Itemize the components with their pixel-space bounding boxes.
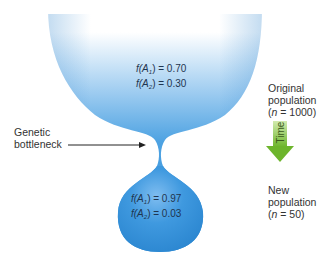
bottleneck-label: Genetic bottleneck: [14, 126, 62, 150]
genetic-bottleneck-diagram: f(A1) = 0.70 f(A2) = 0.30 f(A1) = 0.97 f…: [0, 0, 335, 261]
time-label: Time: [275, 120, 286, 146]
top-fade: [40, 0, 270, 14]
new-allele-frequencies: f(A1) = 0.97 f(A2) = 0.03: [131, 193, 181, 223]
original-population-size: (n = 1000): [268, 106, 316, 118]
new-population-size: (n = 50): [268, 208, 316, 220]
original-allele-frequencies: f(A1) = 0.70 f(A2) = 0.30: [136, 63, 186, 93]
new-freq-a2: f(A2) = 0.03: [131, 208, 181, 223]
original-population-label: Original population (n = 1000): [268, 82, 316, 118]
bottleneck-arrowhead-icon: [139, 142, 146, 148]
original-freq-a2: f(A2) = 0.30: [136, 78, 186, 93]
original-freq-a1: f(A1) = 0.70: [136, 63, 186, 78]
new-freq-a1: f(A1) = 0.97: [131, 193, 181, 208]
new-population-label: New population (n = 50): [268, 184, 316, 220]
